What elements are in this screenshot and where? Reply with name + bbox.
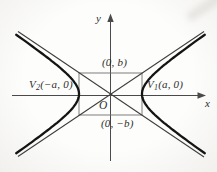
vertex-2-coordinates: (−a, 0) [40, 78, 73, 90]
hyperbola-left-branch [16, 35, 79, 153]
bottom-point-label: (0, −b) [101, 118, 134, 129]
vertex-1-coordinates: (a, 0) [158, 78, 183, 90]
figure-canvas: y x O (0, b) (0, −b) V1(a, 0) V2(−a, 0) [0, 0, 217, 172]
top-point-label: (0, b) [102, 57, 127, 68]
vertex-2-label: V2(−a, 0) [29, 79, 73, 90]
vertex-1-letter: V [147, 78, 154, 90]
y-axis-arrowhead [107, 14, 113, 23]
x-axis-label: x [205, 98, 210, 109]
origin-label: O [99, 100, 108, 112]
y-axis-label: y [96, 13, 101, 24]
vertex-2-letter: V [29, 78, 36, 90]
vertex-1-label: V1(a, 0) [147, 79, 183, 90]
